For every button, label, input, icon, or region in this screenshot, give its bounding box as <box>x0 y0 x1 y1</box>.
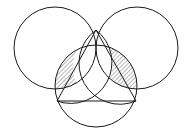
geometry-diagram <box>0 0 191 135</box>
figure-container <box>0 0 191 135</box>
